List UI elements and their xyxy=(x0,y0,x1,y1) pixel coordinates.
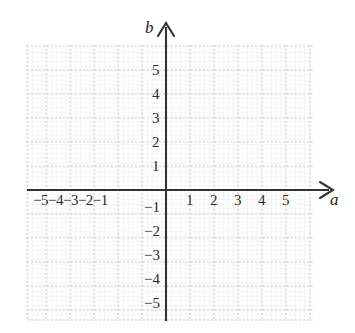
coordinate-plane-figure: b a −5−4−3−2−1 1 2 3 4 5 5 4 3 2 1 −1 −2… xyxy=(0,0,355,333)
x-tick-label-5: 5 xyxy=(282,193,290,208)
x-tick-label-1: 1 xyxy=(186,193,194,208)
x-tick-label-4: 4 xyxy=(258,193,266,208)
y-tick-label-1: 1 xyxy=(152,159,160,174)
y-tick-label-2: 2 xyxy=(152,135,160,150)
y-tick-label-5: 5 xyxy=(152,63,160,78)
y-tick-label-neg-4: −4 xyxy=(144,272,160,287)
y-axis-label-b: b xyxy=(145,19,154,36)
x-tick-label-3: 3 xyxy=(234,193,242,208)
coordinate-grid-canvas xyxy=(0,0,355,333)
y-tick-label-4: 4 xyxy=(152,87,160,102)
y-tick-label-neg-2: −2 xyxy=(144,224,160,239)
y-tick-label-neg-1: −1 xyxy=(144,200,160,215)
x-axis-label-a: a xyxy=(330,191,339,208)
y-tick-label-neg-5: −5 xyxy=(144,296,160,311)
y-tick-label-neg-3: −3 xyxy=(144,248,160,263)
x-tick-labels-negative: −5−4−3−2−1 xyxy=(33,193,108,208)
x-tick-label-2: 2 xyxy=(210,193,218,208)
y-tick-label-3: 3 xyxy=(152,111,160,126)
